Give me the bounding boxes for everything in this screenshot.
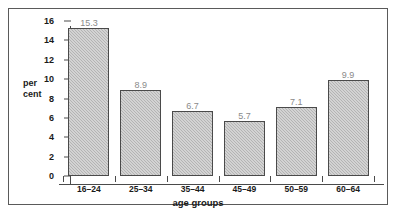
y-tick-label: 14: [9, 35, 54, 45]
x-tick-label: 45–49: [233, 184, 257, 194]
bar-value-label: 7.1: [290, 97, 303, 107]
chart-frame: per cent 0246810121416 15.38.96.75.77.19…: [8, 8, 388, 205]
bar-value-label: 8.9: [134, 80, 147, 90]
x-axis-title: age groups: [9, 197, 387, 208]
x-tick-label: 16–24: [77, 184, 101, 194]
x-tick-mark: [167, 176, 168, 182]
x-tick-mark: [115, 176, 116, 182]
y-tick-label: 4: [9, 132, 54, 142]
x-tick-label: 60–64: [336, 184, 360, 194]
y-tick-label: 0: [9, 171, 54, 181]
x-tick-mark: [374, 176, 375, 182]
bar-value-label: 15.3: [80, 18, 98, 28]
x-tick-mark: [63, 176, 64, 182]
bar[interactable]: 8.9: [120, 90, 161, 176]
x-tick-label: 25–34: [129, 184, 153, 194]
y-tick-label: 10: [9, 74, 54, 84]
bar[interactable]: 5.7: [224, 121, 265, 176]
x-tick-mark: [219, 176, 220, 182]
bar[interactable]: 6.7: [172, 111, 213, 176]
plot-area: 15.38.96.75.77.19.9: [63, 21, 374, 176]
y-tick-label: 8: [9, 94, 54, 104]
x-axis-line: [59, 184, 384, 185]
y-tick-label: 6: [9, 113, 54, 123]
bar-value-label: 9.9: [342, 70, 355, 80]
x-tick-label: 50–59: [284, 184, 308, 194]
bar[interactable]: 15.3: [68, 28, 109, 176]
bar[interactable]: 7.1: [276, 107, 317, 176]
bar-value-label: 5.7: [238, 111, 251, 121]
y-tick-label: 2: [9, 152, 54, 162]
bar[interactable]: 9.9: [328, 80, 369, 176]
x-tick-label: 35–44: [181, 184, 205, 194]
bar-value-label: 6.7: [186, 101, 199, 111]
y-tick-label: 16: [9, 16, 54, 26]
x-tick-mark: [270, 176, 271, 182]
y-tick-label: 12: [9, 55, 54, 65]
x-tick-mark: [322, 176, 323, 182]
